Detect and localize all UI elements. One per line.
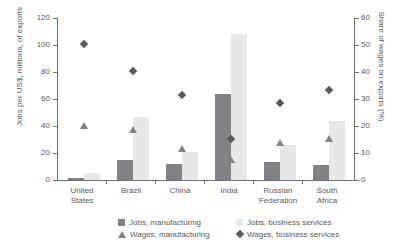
bar-jobs-business-services — [84, 173, 100, 180]
x-axis-label-line1: South — [297, 186, 357, 196]
plot-area — [57, 18, 354, 180]
x-axis-separator — [253, 180, 254, 184]
y-right-label-10: 10 — [361, 149, 387, 157]
y-left-label-20: 20 — [24, 149, 50, 157]
legend-item-wages-business-services: Wages, business services — [236, 229, 358, 240]
legend-label: Wages, business services — [247, 229, 339, 240]
y-right-tick-60 — [355, 18, 359, 19]
x-axis-separator — [204, 180, 205, 184]
legend-label: Jobs, business services — [247, 217, 331, 228]
y-right-tick-20 — [355, 126, 359, 127]
y-right-tick-10 — [355, 153, 359, 154]
y-left-label-80: 80 — [24, 68, 50, 76]
square-swatch-icon — [236, 219, 243, 226]
x-axis-label-line2: States — [52, 196, 112, 206]
y-axis-left-title: Jobs per US$, millions, of exports — [15, 0, 24, 142]
chart-legend: Jobs, manufacturing Jobs, business servi… — [118, 216, 358, 240]
y-right-tick-40 — [355, 72, 359, 73]
bar-jobs-manufacturing — [68, 178, 84, 180]
x-axis-label-line2: Africa — [297, 196, 357, 206]
bar-jobs-manufacturing — [117, 160, 133, 180]
x-axis-label-south-africa: South Africa — [297, 186, 357, 206]
y-left-tick-0 — [53, 180, 57, 181]
marker-wages-manufacturing — [276, 139, 284, 146]
legend-label: Jobs, manufacturing — [129, 217, 201, 228]
marker-wages-business-services — [80, 40, 88, 48]
bar-jobs-business-services — [280, 145, 296, 180]
legend-item-wages-manufacturing: Wages, manufacturing — [118, 229, 236, 240]
legend-label: Wages, manufacturing — [130, 229, 210, 240]
bar-jobs-manufacturing — [264, 162, 280, 180]
legend-item-jobs-manufacturing: Jobs, manufacturing — [118, 217, 236, 228]
y-right-label-0: 0 — [361, 176, 387, 184]
bar-jobs-manufacturing — [166, 164, 182, 180]
bar-jobs-business-services — [182, 152, 198, 180]
y-right-tick-50 — [355, 45, 359, 46]
y-left-label-40: 40 — [24, 122, 50, 130]
marker-wages-manufacturing — [129, 126, 137, 133]
y-right-tick-30 — [355, 99, 359, 100]
bar-jobs-manufacturing — [313, 165, 329, 180]
x-axis-separator — [155, 180, 156, 184]
y-left-label-100: 100 — [24, 41, 50, 49]
x-axis-separator — [302, 180, 303, 184]
bar-jobs-business-services — [329, 121, 345, 180]
marker-wages-manufacturing — [178, 145, 186, 152]
marker-wages-manufacturing — [325, 135, 333, 142]
triangle-marker-icon — [118, 231, 126, 238]
y-left-label-60: 60 — [24, 95, 50, 103]
y-left-label-120: 120 — [24, 14, 50, 22]
marker-wages-business-services — [325, 86, 333, 94]
x-axis-line — [57, 180, 355, 181]
diamond-marker-icon — [236, 230, 244, 238]
x-axis-separator — [106, 180, 107, 184]
square-swatch-icon — [118, 219, 125, 226]
y-right-tick-0 — [355, 180, 359, 181]
marker-wages-business-services — [276, 99, 284, 107]
y-axis-right-title: Share of wages on exports (%) — [377, 0, 386, 142]
marker-wages-business-services — [178, 91, 186, 99]
y-left-label-0: 0 — [24, 176, 50, 184]
marker-wages-manufacturing — [80, 122, 88, 129]
legend-row-wages: Wages, manufacturing Wages, business ser… — [118, 228, 358, 240]
legend-row-jobs: Jobs, manufacturing Jobs, business servi… — [118, 216, 358, 228]
marker-wages-manufacturing — [227, 156, 235, 163]
chart-container: 120 100 80 60 40 20 0 60 50 40 30 20 10 … — [0, 0, 411, 252]
marker-wages-business-services — [129, 67, 137, 75]
legend-item-jobs-business-services: Jobs, business services — [236, 217, 358, 228]
